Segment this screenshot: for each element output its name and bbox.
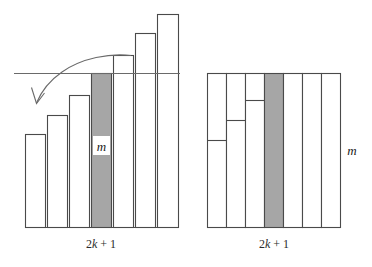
left-bar-5	[114, 56, 134, 228]
right-col-2	[227, 74, 246, 228]
right-col-7	[322, 74, 341, 228]
right-col-6	[303, 74, 322, 228]
bar-diagram-svg: m 2k + 1 m	[0, 0, 372, 267]
right-height-label: m	[347, 143, 356, 158]
right-col-1	[208, 74, 227, 228]
right-col-3	[246, 74, 265, 228]
left-bar-7	[158, 15, 179, 228]
left-caption: 2k + 1	[86, 237, 116, 251]
left-panel: m 2k + 1	[14, 15, 180, 252]
right-caption: 2k + 1	[259, 237, 289, 251]
left-highlight-label: m	[97, 139, 106, 154]
left-bar-6	[136, 34, 156, 228]
right-col-5	[284, 74, 303, 228]
left-bar-3	[70, 96, 90, 228]
left-bar-1	[26, 135, 46, 228]
right-col-4-highlighted	[265, 74, 284, 228]
curved-arrow-head	[32, 88, 45, 104]
left-caption-plusone: + 1	[97, 237, 116, 251]
figure-container: m 2k + 1 m	[0, 0, 372, 267]
right-panel: m 2k + 1	[208, 74, 357, 252]
right-caption-plusone: + 1	[270, 237, 289, 251]
left-bar-2	[48, 116, 68, 228]
